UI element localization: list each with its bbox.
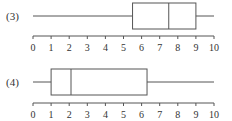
tick-label: 7 <box>157 42 162 53</box>
plot-label: (3) <box>6 10 19 23</box>
iqr-box <box>133 3 196 29</box>
tick-label: 8 <box>175 42 180 53</box>
tick-label: 3 <box>85 42 90 53</box>
tick-label: 0 <box>31 42 36 53</box>
boxplot-chart: (3)012345678910(4)012345678910 <box>0 0 232 121</box>
tick-label: 1 <box>49 42 54 53</box>
tick-label: 6 <box>139 42 144 53</box>
x-axis: 012345678910 <box>31 36 220 53</box>
tick-label: 9 <box>193 42 198 53</box>
tick-label: 2 <box>67 42 72 53</box>
tick-label: 7 <box>157 109 162 120</box>
tick-label: 10 <box>209 42 219 53</box>
tick-label: 10 <box>209 109 219 120</box>
tick-label: 6 <box>139 109 144 120</box>
tick-label: 0 <box>31 109 36 120</box>
plot-label: (4) <box>6 76 19 89</box>
tick-label: 4 <box>103 42 108 53</box>
tick-label: 4 <box>103 109 108 120</box>
boxplot-3: (3)012345678910 <box>6 3 219 53</box>
tick-label: 2 <box>67 109 72 120</box>
boxplot-4: (4)012345678910 <box>6 69 219 120</box>
tick-label: 9 <box>193 109 198 120</box>
x-axis: 012345678910 <box>31 103 220 120</box>
iqr-box <box>51 69 147 95</box>
tick-label: 1 <box>49 109 54 120</box>
tick-label: 3 <box>85 109 90 120</box>
tick-label: 5 <box>121 42 126 53</box>
tick-label: 8 <box>175 109 180 120</box>
tick-label: 5 <box>121 109 126 120</box>
